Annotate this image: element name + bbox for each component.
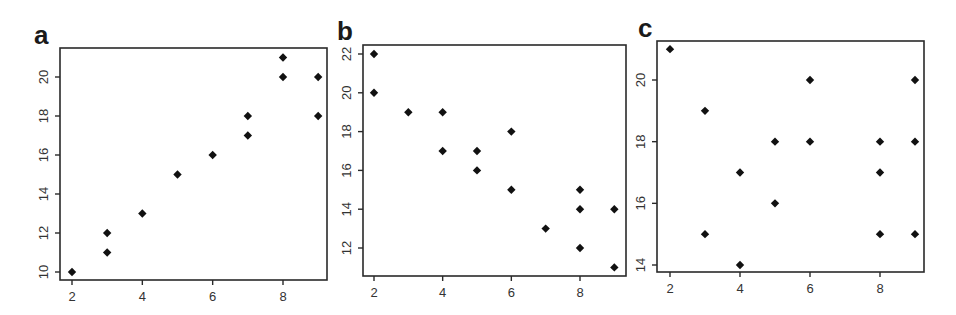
data-point <box>507 127 515 135</box>
data-point <box>314 112 322 120</box>
y-tick-label: 10 <box>36 265 51 279</box>
data-point <box>701 230 709 238</box>
x-tick-label: 6 <box>806 281 813 296</box>
panel-c: 246814161820 <box>633 41 924 296</box>
x-tick-label: 6 <box>508 285 515 300</box>
data-point <box>610 205 618 213</box>
data-point <box>771 137 779 145</box>
panel-a: 2468101214161820 <box>36 48 327 304</box>
data-point <box>68 268 76 276</box>
data-point <box>314 73 322 81</box>
y-tick-label: 14 <box>633 258 648 272</box>
data-point <box>576 205 584 213</box>
data-point <box>736 261 744 269</box>
data-point <box>404 108 412 116</box>
data-point <box>103 229 111 237</box>
data-point <box>576 244 584 252</box>
data-point <box>876 168 884 176</box>
y-tick-label: 12 <box>339 241 354 255</box>
data-point <box>876 137 884 145</box>
plot-frame <box>657 41 924 272</box>
x-tick-label: 6 <box>209 289 216 304</box>
x-tick-label: 8 <box>876 281 883 296</box>
x-tick-label: 8 <box>576 285 583 300</box>
data-point <box>279 53 287 61</box>
data-point <box>438 108 446 116</box>
data-point <box>911 137 919 145</box>
x-tick-label: 4 <box>736 281 743 296</box>
data-point <box>370 89 378 97</box>
panel-b: 2468121416182022 <box>339 45 626 300</box>
y-tick-label: 14 <box>339 202 354 216</box>
data-point <box>208 151 216 159</box>
data-point <box>244 131 252 139</box>
y-tick-label: 20 <box>633 73 648 87</box>
data-point <box>473 166 481 174</box>
x-tick-label: 2 <box>68 289 75 304</box>
x-tick-label: 2 <box>666 281 673 296</box>
plot-frame <box>363 45 626 276</box>
x-tick-label: 8 <box>279 289 286 304</box>
data-point <box>806 76 814 84</box>
data-point <box>279 73 287 81</box>
y-tick-label: 16 <box>36 148 51 162</box>
data-point <box>911 230 919 238</box>
data-point <box>244 112 252 120</box>
y-tick-label: 22 <box>339 47 354 61</box>
x-tick-label: 2 <box>370 285 377 300</box>
scatter-plots: 2468101214161820246812141618202224681416… <box>0 0 956 315</box>
y-tick-label: 18 <box>36 109 51 123</box>
data-point <box>473 147 481 155</box>
y-tick-label: 18 <box>633 134 648 148</box>
data-point <box>771 199 779 207</box>
data-point <box>173 170 181 178</box>
data-point <box>701 107 709 115</box>
data-point <box>138 209 146 217</box>
data-point <box>736 168 744 176</box>
data-point <box>370 50 378 58</box>
data-point <box>541 224 549 232</box>
y-tick-label: 20 <box>339 86 354 100</box>
y-tick-label: 20 <box>36 70 51 84</box>
data-point <box>666 45 674 53</box>
data-point <box>911 76 919 84</box>
data-point <box>103 248 111 256</box>
data-point <box>876 230 884 238</box>
y-tick-label: 12 <box>36 226 51 240</box>
data-point <box>507 186 515 194</box>
plot-frame <box>60 48 327 280</box>
data-point <box>576 186 584 194</box>
data-point <box>610 263 618 271</box>
y-tick-label: 16 <box>633 196 648 210</box>
y-tick-label: 18 <box>339 124 354 138</box>
x-tick-label: 4 <box>439 285 446 300</box>
y-tick-label: 16 <box>339 163 354 177</box>
x-tick-label: 4 <box>139 289 146 304</box>
y-tick-label: 14 <box>36 187 51 201</box>
data-point <box>438 147 446 155</box>
data-point <box>806 137 814 145</box>
